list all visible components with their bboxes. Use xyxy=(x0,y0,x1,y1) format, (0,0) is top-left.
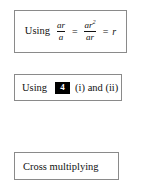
result-variable: r xyxy=(112,27,116,37)
reference-number-badge: 4 xyxy=(55,82,70,94)
fraction-numerator: ar2 xyxy=(83,21,98,31)
step-box-cross-multiplying: Cross multiplying xyxy=(14,152,119,180)
fraction-denominator: ar xyxy=(84,31,96,42)
formula-line: Using ar a = ar2 ar = r xyxy=(25,21,116,42)
fraction-numerator: ar xyxy=(55,21,67,31)
equals-sign-2: = xyxy=(103,27,109,37)
numerator-base: ar xyxy=(85,20,93,30)
fraction-ar-over-a: ar a xyxy=(55,21,67,42)
step-box-fraction-identity: Using ar a = ar2 ar = r xyxy=(14,10,127,53)
lead-word-using: Using xyxy=(22,82,47,93)
equals-sign-1: = xyxy=(72,27,78,37)
fraction-ar2-over-ar: ar2 ar xyxy=(83,21,98,42)
lead-word-using: Using xyxy=(25,26,50,37)
reference-trailing-text: (i) and (ii) xyxy=(75,82,118,93)
cross-multiplying-label: Cross multiplying xyxy=(23,161,99,172)
numerator-exponent: 2 xyxy=(93,18,96,25)
step-box-reference: Using 4 (i) and (ii) xyxy=(14,74,122,101)
fraction-denominator: a xyxy=(57,31,66,42)
reference-line: Using 4 (i) and (ii) xyxy=(22,82,118,94)
